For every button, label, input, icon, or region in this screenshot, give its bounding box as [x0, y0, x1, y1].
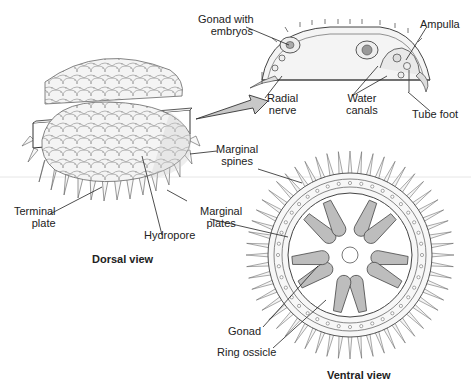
label-ring-ossicle: Ring ossicle — [217, 346, 276, 358]
label-line: nerve — [267, 104, 298, 116]
label-line: Water — [346, 92, 378, 104]
label-ampulla: Ampulla — [420, 18, 460, 30]
arrow-icon — [196, 95, 268, 119]
label-line: embryos — [198, 25, 254, 37]
ventral-view-illustration — [246, 151, 454, 359]
dorsal-view-title: Dorsal view — [92, 253, 153, 265]
label-radial-nerve: Radial nerve — [267, 92, 298, 116]
label-water-canals: Water canals — [346, 92, 378, 116]
label-gonad: Gonad — [228, 325, 261, 337]
label-line: plates — [200, 217, 242, 229]
label-line: Radial — [267, 92, 298, 104]
label-terminal-plate: Terminal plate — [14, 205, 56, 229]
label-marginal-spines: Marginal spines — [216, 143, 258, 167]
label-marginal-plates: Marginal plates — [200, 205, 242, 229]
label-line: Terminal — [14, 205, 56, 217]
label-line: Gonad with — [198, 13, 254, 25]
cross-section-illustration — [250, 19, 430, 92]
figure-canvas: Gonad with embryos Radial nerve Water ca… — [0, 0, 471, 383]
label-line: spines — [216, 155, 258, 167]
label-tube-foot: Tube foot — [412, 108, 458, 120]
ventral-view-title: Ventral view — [327, 369, 391, 381]
label-line: Marginal — [216, 143, 258, 155]
label-line: canals — [346, 104, 378, 116]
dorsal-view-illustration — [22, 58, 200, 201]
label-line: Marginal — [200, 205, 242, 217]
label-hydropore: Hydropore — [144, 229, 195, 241]
label-line: plate — [14, 217, 56, 229]
label-gonad-with-embryos: Gonad with embryos — [198, 13, 254, 37]
